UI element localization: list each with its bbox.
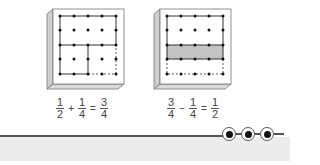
equals-sign: =: [90, 103, 96, 114]
minus-sign: −: [179, 103, 185, 114]
equation-1: 12 + 14 = 34: [55, 94, 109, 122]
geoboard-1: [45, 8, 125, 90]
geoboard-1-drawing: [45, 8, 125, 90]
dot-icon: [260, 127, 274, 141]
geoboard-2-drawing: [152, 8, 232, 90]
fraction: 14: [78, 97, 86, 120]
fraction: 34: [167, 97, 175, 120]
geoboard-2: [152, 8, 232, 90]
plus-sign: +: [68, 103, 74, 114]
fraction: 12: [56, 97, 64, 120]
nav-dots: [222, 127, 284, 141]
fraction: 12: [211, 97, 219, 120]
equals-sign: =: [201, 103, 207, 114]
dot-connector: [274, 133, 284, 135]
dot-icon: [241, 127, 255, 141]
fraction: 14: [189, 97, 197, 120]
fraction: 34: [100, 97, 108, 120]
dot-icon: [222, 127, 236, 141]
equation-2: 34 − 14 = 12: [166, 94, 220, 122]
